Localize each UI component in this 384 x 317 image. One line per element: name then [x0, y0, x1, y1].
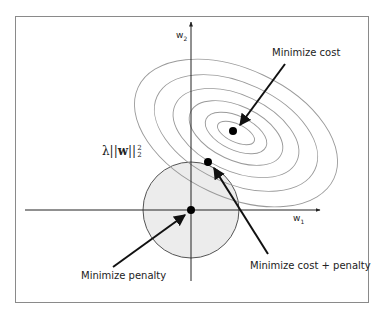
penalty-minimum-point	[187, 206, 195, 214]
w2-axis-label: w2	[176, 30, 187, 42]
regularized-minimum-point	[204, 158, 212, 166]
minimize-cost-label: Minimize cost	[272, 47, 340, 58]
cost-minimum-point	[229, 127, 237, 135]
minimize-cost-penalty-label: Minimize cost + penalty	[250, 260, 371, 271]
minimize-penalty-label: Minimize penalty	[81, 270, 166, 281]
w1-axis-label: w1	[293, 213, 304, 225]
penalty-term-label: λ||w||22	[102, 144, 142, 159]
